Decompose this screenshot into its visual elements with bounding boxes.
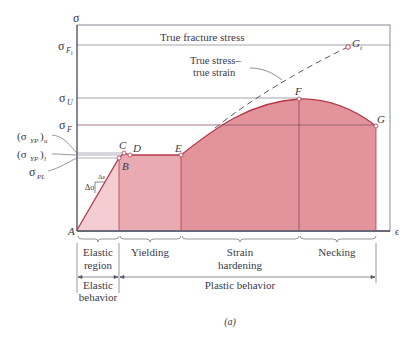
region-strain-label-2: hardening: [218, 259, 262, 271]
svg-text:t: t: [71, 50, 73, 56]
region-elastic-label-1: Elastic: [83, 246, 113, 258]
region-strain-label-1: Strain: [227, 246, 254, 258]
figure-caption: (a): [224, 316, 236, 328]
point-c: [122, 151, 126, 155]
point-d: [128, 153, 132, 157]
label-sigma-ft: σ F t: [58, 39, 73, 56]
svg-text:(σ: (σ: [17, 148, 27, 161]
point-gt: [346, 45, 351, 50]
svg-text:F: F: [66, 125, 72, 134]
svg-text:σ: σ: [58, 39, 65, 53]
hardening-necking-fill: [181, 99, 376, 230]
region-necking-label: Necking: [318, 246, 356, 258]
delta-eps-label: Δε: [98, 173, 106, 181]
label-sigma-pl: σ PL: [29, 165, 45, 181]
point-d-label: D: [132, 142, 141, 154]
svg-text:σ: σ: [59, 91, 66, 105]
point-c-label: C: [119, 139, 127, 151]
x-axis-label: ϵ: [395, 226, 399, 237]
svg-text:σ: σ: [29, 165, 36, 179]
label-sigma-u: σ U: [59, 91, 74, 107]
point-b: [117, 156, 121, 160]
syp-l-leader: [52, 154, 77, 155]
svg-text:σ: σ: [59, 118, 66, 132]
svg-text:PL: PL: [36, 173, 45, 181]
point-a-label: A: [67, 225, 75, 237]
behavior-elastic-label-1: Elastic: [83, 279, 113, 291]
true-stress-label-1: True stress–: [190, 55, 241, 66]
svg-text:(σ: (σ: [17, 130, 27, 143]
point-f: [297, 97, 301, 101]
label-syp-upper: (σ YP ) u: [17, 130, 48, 145]
behavior-elastic-label-2: behavior: [79, 291, 118, 303]
behavior-plastic-label: Plastic behavior: [205, 279, 276, 291]
true-stress-leader: [250, 68, 282, 80]
region-braces: [78, 236, 376, 242]
point-gt-label: G: [352, 37, 360, 49]
point-f-label: F: [294, 85, 302, 97]
svg-text:YP: YP: [30, 155, 39, 163]
svg-text:l: l: [44, 155, 46, 163]
svg-text:YP: YP: [30, 137, 39, 145]
point-b-label: B: [122, 160, 129, 172]
sigma-pl-leader: [48, 158, 77, 171]
point-e-label: E: [174, 142, 182, 154]
region-elastic-label-2: region: [84, 259, 113, 271]
label-sigma-f: σ F: [59, 118, 72, 134]
syp-u-leader: [52, 135, 77, 153]
true-fracture-stress-label: True fracture stress: [160, 31, 245, 43]
label-syp-lower: (σ YP ) l: [17, 148, 46, 163]
svg-text:U: U: [67, 98, 74, 107]
stress-strain-diagram: σ ϵ σ F t σ U σ F (σ YP ) u (σ YP ) l σ …: [0, 0, 413, 343]
svg-text:u: u: [44, 137, 48, 145]
delta-sigma-label: Δσ: [85, 183, 95, 192]
true-stress-label-2: true strain: [193, 67, 236, 78]
region-yielding-label: Yielding: [131, 246, 169, 258]
y-axis-label: σ: [73, 11, 80, 25]
point-g-label: G: [377, 113, 385, 125]
